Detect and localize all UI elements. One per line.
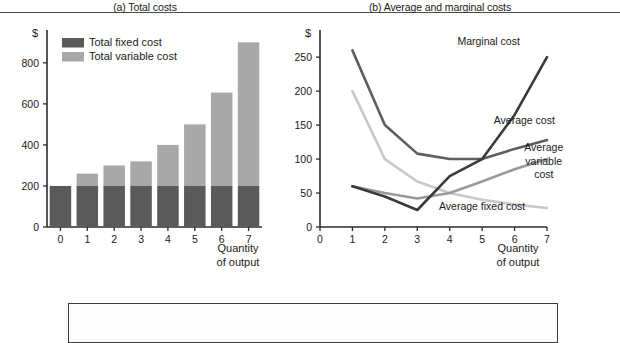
- x-tick-label: 4: [447, 233, 453, 245]
- y-tick-group: 050100150200250: [294, 51, 320, 233]
- y-tick-label: 50: [300, 187, 312, 199]
- bar-segment-fixed-cost: [184, 186, 206, 227]
- bar-segment-variable-cost: [130, 161, 152, 186]
- bar-segment-fixed-cost: [157, 186, 179, 227]
- bar-segment-fixed-cost: [238, 186, 260, 227]
- x-tick-label: 5: [192, 233, 198, 245]
- bar-segment-variable-cost: [238, 42, 260, 186]
- y-tick-label: 0: [33, 221, 39, 233]
- x-axis-title-line1: Quantity: [498, 242, 539, 254]
- curve-annotation: Average cost: [494, 114, 555, 126]
- curve-group: [352, 50, 547, 210]
- panel-average-marginal-costs: (b) Average and marginal costs 050100150…: [275, 0, 620, 285]
- y-tick-label: 200: [21, 180, 39, 192]
- bar-segment-variable-cost: [103, 165, 125, 186]
- bar-segment-fixed-cost: [77, 186, 99, 227]
- y-tick-label: 0: [306, 221, 312, 233]
- y-axis-currency-label: $: [32, 27, 38, 39]
- y-tick-label: 250: [294, 51, 312, 63]
- bar-segment-variable-cost: [77, 174, 99, 186]
- x-tick-label: 5: [479, 233, 485, 245]
- legend-swatch: [62, 52, 84, 62]
- curve-annotation: Average: [524, 141, 563, 153]
- x-tick-label: 1: [84, 233, 90, 245]
- curve-average-variable-cost: [352, 159, 547, 198]
- y-tick-label: 800: [21, 57, 39, 69]
- curve-annotation: variable: [525, 155, 562, 167]
- y-tick-label: 150: [294, 119, 312, 131]
- bar-segment-fixed-cost: [50, 186, 72, 227]
- x-tick-label: 2: [111, 233, 117, 245]
- y-tick-label: 400: [21, 139, 39, 151]
- y-tick-label: 600: [21, 98, 39, 110]
- x-tick-label: 3: [414, 233, 420, 245]
- y-tick-label: 100: [294, 153, 312, 165]
- bar-segment-variable-cost: [157, 145, 179, 186]
- curve-average-cost: [352, 50, 547, 159]
- x-axis-title-line1: Quantity: [218, 242, 259, 254]
- curve-marginal-cost: [352, 57, 547, 210]
- y-tick-group: 0200400600800: [21, 57, 47, 233]
- x-tick-label: 3: [138, 233, 144, 245]
- bar-segment-fixed-cost: [130, 186, 152, 227]
- curve-annotation: Average fixed cost: [439, 200, 525, 212]
- legend-label: Total fixed cost: [89, 36, 162, 48]
- x-tick-label: 0: [58, 233, 64, 245]
- legend: Total fixed costTotal variable cost: [62, 36, 177, 62]
- x-axis-title-line2: of output: [217, 256, 260, 268]
- panel-total-costs: (a) Total costs 0200400600800 01234567 $…: [0, 0, 300, 285]
- x-tick-label: 0: [317, 233, 323, 245]
- bar-segment-fixed-cost: [103, 186, 125, 227]
- x-tick-label: 4: [165, 233, 171, 245]
- legend-label: Total variable cost: [89, 50, 177, 62]
- curve-annotation: Marginal cost: [457, 35, 520, 47]
- total-costs-chart: 0200400600800 01234567 $ Total fixed cos…: [0, 0, 300, 285]
- bar-segment-variable-cost: [184, 124, 206, 186]
- x-tick-label: 1: [350, 233, 356, 245]
- legend-swatch: [62, 38, 84, 48]
- y-tick-label: 200: [294, 85, 312, 97]
- x-tick-label: 2: [382, 233, 388, 245]
- x-axis-title-line2: of output: [497, 256, 540, 268]
- average-marginal-costs-chart: 050100150200250 01234567 Marginal costAv…: [275, 0, 620, 285]
- y-axis-currency-label: $: [305, 27, 311, 39]
- bar-group: [50, 42, 260, 227]
- curve-annotation: cost: [534, 168, 553, 180]
- bar-segment-fixed-cost: [211, 186, 233, 227]
- bar-segment-variable-cost: [211, 93, 233, 186]
- x-tick-label: 7: [544, 233, 550, 245]
- caption-box: [68, 303, 558, 343]
